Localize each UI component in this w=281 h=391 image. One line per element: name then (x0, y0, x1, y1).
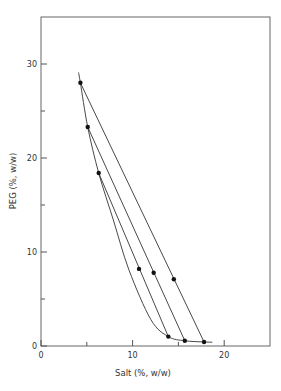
chart-lines (79, 72, 213, 342)
tie-line-2-top-point (86, 125, 90, 129)
tie-line-2 (88, 127, 185, 341)
y-tick-label: 0 (32, 342, 37, 351)
plot-frame (41, 17, 270, 346)
x-tick-label: 10 (128, 351, 138, 360)
axis-tick-labels: 010200102030 (27, 60, 229, 360)
axis-ticks (41, 64, 224, 346)
binodal-curve (79, 72, 213, 342)
tie-line-3 (99, 173, 169, 337)
tie-line-3-bottom-point (166, 334, 170, 338)
y-axis-label: PEG (%, w/w) (8, 153, 18, 210)
phase-diagram-chart: 010200102030 Salt (%, w/w) PEG (%, w/w) (0, 0, 281, 391)
x-tick-label: 20 (219, 351, 229, 360)
tie-line-1-top-point (78, 81, 82, 85)
y-tick-label: 10 (27, 248, 37, 257)
x-tick-label: 0 (38, 351, 43, 360)
tie-line-2-middle-point (151, 270, 155, 274)
tie-line-3-top-point (97, 171, 101, 175)
tie-line-1-middle-point (172, 277, 176, 281)
tie-line-1-bottom-point (202, 340, 206, 344)
tie-line-2-bottom-point (183, 339, 187, 343)
y-tick-label: 20 (27, 154, 37, 163)
x-axis-label: Salt (%, w/w) (115, 368, 171, 378)
y-tick-label: 30 (27, 60, 37, 69)
tie-line-3-middle-point (137, 267, 141, 271)
